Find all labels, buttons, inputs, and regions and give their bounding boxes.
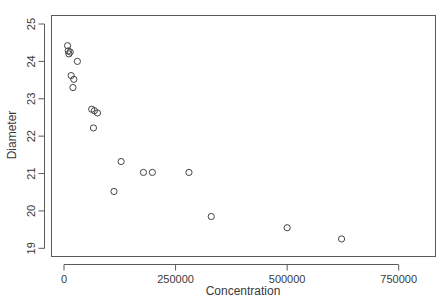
y-axis: 19202122232425 Diameter	[5, 18, 45, 255]
scatter-plot-figure: 19202122232425 Diameter 0250000500000750…	[0, 0, 447, 305]
data-point	[284, 225, 290, 231]
y-axis-ticks	[39, 24, 45, 248]
y-tick-label: 22	[25, 130, 37, 142]
y-axis-title: Diameter	[5, 111, 19, 160]
data-point-series	[64, 43, 344, 242]
x-axis-ticks	[64, 265, 399, 271]
y-tick-label: 23	[25, 93, 37, 105]
data-point	[90, 125, 96, 131]
data-point	[149, 169, 155, 175]
data-point	[208, 213, 214, 219]
x-tick-label: 0	[61, 273, 67, 285]
data-point	[118, 158, 124, 164]
data-point	[111, 188, 117, 194]
data-point	[338, 236, 344, 242]
x-tick-label: 250000	[157, 273, 194, 285]
data-point	[140, 169, 146, 175]
data-point	[67, 49, 73, 55]
y-tick-label: 21	[25, 167, 37, 179]
data-point	[70, 84, 76, 90]
data-point	[74, 58, 80, 64]
y-axis-tick-labels: 19202122232425	[25, 18, 37, 255]
y-tick-label: 24	[25, 55, 37, 67]
y-tick-label: 19	[25, 242, 37, 254]
y-tick-label: 20	[25, 205, 37, 217]
y-tick-label: 25	[25, 18, 37, 30]
x-tick-label: 750000	[380, 273, 417, 285]
x-axis-title: Concentration	[206, 284, 281, 298]
x-axis: 0250000500000750000 Concentration	[61, 265, 417, 299]
plot-canvas: 19202122232425 Diameter 0250000500000750…	[0, 0, 447, 305]
plot-frame-box	[52, 16, 436, 257]
data-point	[186, 169, 192, 175]
